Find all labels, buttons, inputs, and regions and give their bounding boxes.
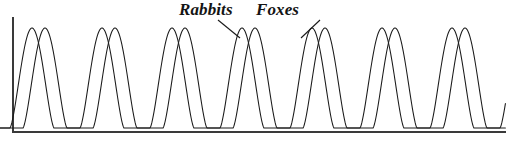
series-line-rabbits xyxy=(0,28,505,128)
plot-area xyxy=(0,0,506,147)
series-group xyxy=(0,28,505,128)
predator-prey-figure: Rabbits Foxes xyxy=(0,0,506,147)
series-label-rabbits: Rabbits xyxy=(179,0,233,20)
series-label-foxes: Foxes xyxy=(256,0,299,20)
leader-line-foxes xyxy=(301,20,320,38)
annotation-leaders xyxy=(218,20,320,38)
leader-line-rabbits xyxy=(218,20,240,38)
series-line-foxes xyxy=(0,28,505,128)
